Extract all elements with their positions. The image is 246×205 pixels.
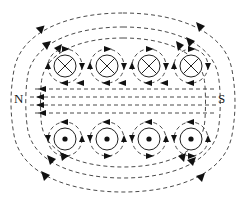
arrowhead-ring-down bbox=[87, 135, 93, 142]
arrowhead-ring-up bbox=[87, 62, 93, 69]
outer-loop-arrowheads bbox=[36, 22, 205, 182]
arrowhead-ring-top bbox=[186, 119, 194, 125]
north-pole-label: N bbox=[14, 92, 23, 105]
arrowhead-ring-up bbox=[121, 135, 127, 142]
arrowhead-ring-top bbox=[188, 46, 196, 52]
interior-line-arrowheads bbox=[36, 80, 168, 116]
current-dot bbox=[146, 136, 151, 141]
conductor-out-of-page bbox=[129, 119, 169, 159]
arrowhead-ring-down bbox=[129, 135, 135, 142]
arrowhead-ring-bottom bbox=[186, 80, 194, 86]
arrowhead-left bbox=[36, 102, 44, 108]
arrowhead-loop bbox=[54, 44, 62, 53]
arrowhead-ring-top bbox=[60, 119, 68, 125]
arrowhead-left bbox=[38, 86, 46, 92]
arrowhead-ring-down bbox=[45, 135, 51, 142]
current-dot bbox=[104, 136, 109, 141]
arrowhead-ring-up bbox=[163, 135, 169, 142]
conductor-out-of-page bbox=[87, 119, 127, 159]
arrowhead-left bbox=[38, 110, 46, 116]
arrowhead-loop bbox=[196, 22, 205, 32]
arrowhead-ring-bottom bbox=[104, 153, 112, 159]
arrowhead-loop bbox=[41, 171, 50, 181]
conductor-out-of-page bbox=[171, 119, 211, 159]
magnetic-field-diagram: N S bbox=[0, 0, 246, 205]
outer-field-loops bbox=[11, 13, 235, 192]
arrowhead-left bbox=[76, 80, 84, 86]
arrowhead-ring-top bbox=[146, 46, 154, 52]
arrowhead-ring-bottom bbox=[60, 80, 68, 86]
arrowhead-left bbox=[160, 80, 168, 86]
arrowhead-ring-bottom bbox=[62, 153, 70, 159]
arrowhead-ring-down bbox=[205, 63, 211, 70]
arrowhead-ring-down bbox=[121, 63, 127, 70]
conductor-out-of-page bbox=[45, 119, 85, 159]
arrowhead-ring-down bbox=[171, 135, 177, 142]
arrowhead-ring-bottom bbox=[102, 80, 110, 86]
conductor-into-page bbox=[87, 46, 127, 86]
arrowhead-left bbox=[118, 80, 126, 86]
arrowhead-ring-down bbox=[163, 63, 169, 70]
outer-loop-1 bbox=[11, 13, 235, 192]
current-dot bbox=[62, 136, 67, 141]
arrowhead-ring-bottom bbox=[146, 153, 154, 159]
arrowhead-loop bbox=[47, 155, 56, 165]
arrowhead-ring-up bbox=[171, 62, 177, 69]
arrowhead-ring-bottom bbox=[144, 80, 152, 86]
arrowhead-ring-up bbox=[79, 135, 85, 142]
arrowhead-ring-up bbox=[45, 62, 51, 69]
south-pole-label: S bbox=[218, 92, 225, 105]
arrowhead-ring-top bbox=[62, 46, 70, 52]
coil-row-bottom bbox=[45, 119, 211, 159]
arrowhead-ring-up bbox=[205, 135, 211, 142]
arrowhead-ring-down bbox=[79, 63, 85, 70]
arrowhead-ring-top bbox=[104, 46, 112, 52]
arrowhead-ring-top bbox=[102, 119, 110, 125]
arrowhead-left bbox=[36, 94, 44, 100]
arrowhead-ring-top bbox=[144, 119, 152, 125]
coil-row-top bbox=[45, 46, 211, 86]
conductor-into-page bbox=[45, 46, 85, 86]
conductor-into-page bbox=[129, 46, 169, 86]
conductor-into-page bbox=[171, 46, 211, 86]
arrowhead-loop bbox=[186, 37, 195, 47]
current-dot bbox=[188, 136, 193, 141]
interior-field-lines bbox=[30, 89, 216, 113]
field-line-canvas bbox=[0, 0, 246, 205]
arrowhead-ring-up bbox=[129, 62, 135, 69]
